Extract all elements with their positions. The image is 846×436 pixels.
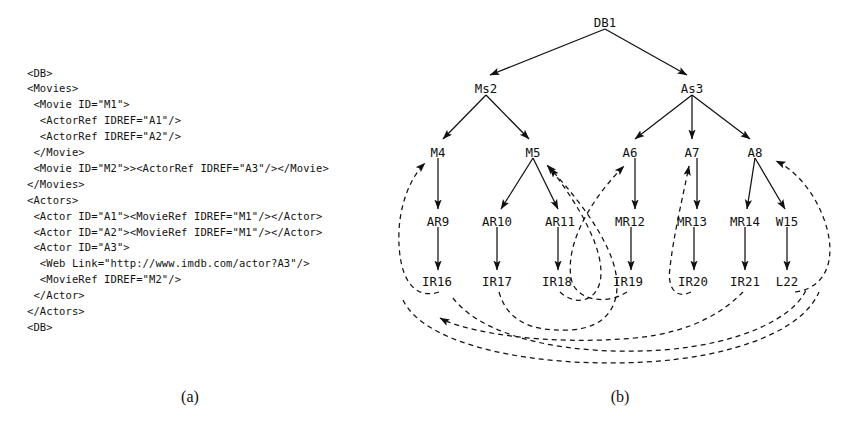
node-m5: M5: [526, 145, 541, 160]
node-a6: A6: [623, 145, 638, 160]
node-m4: M4: [431, 145, 446, 160]
node-ar11: AR11: [545, 214, 575, 229]
node-a8: A8: [748, 145, 763, 160]
node-as3: As3: [681, 81, 703, 96]
edge-db1-as3: [605, 29, 687, 75]
node-mr12: MR12: [615, 214, 645, 229]
node-ir19: IR19: [613, 274, 643, 289]
edge-m5-ar10: [501, 158, 533, 209]
node-mr13: MR13: [677, 214, 707, 229]
ref-edge-ir21-a8: [440, 292, 743, 340]
node-a7: A7: [685, 145, 700, 160]
edge-ms2-m5: [486, 95, 529, 139]
edge-m5-ar11: [533, 158, 558, 209]
node-ar10: AR10: [482, 214, 512, 229]
edge-as3-a8: [692, 95, 750, 139]
node-ir20: IR20: [678, 274, 708, 289]
reference-edge-group: [399, 161, 830, 363]
xml-listing-panel: <DB> <Movies> <Movie ID="M1"> <ActorRef …: [27, 55, 377, 346]
edge-as3-a6: [635, 95, 692, 139]
node-db1: DB1: [594, 15, 616, 30]
edge-ms2-m4: [443, 95, 486, 139]
caption-a: (a): [170, 388, 210, 406]
node-ms2: Ms2: [475, 81, 497, 96]
xml-source-code: <DB> <Movies> <Movie ID="M1"> <ActorRef …: [27, 66, 377, 336]
node-ir16: IR16: [422, 274, 452, 289]
node-ar9: AR9: [427, 214, 449, 229]
xml-graph-diagram: DB1 Ms2 As3 M4 M5 A6 A7 A8 AR9 AR10 AR11…: [395, 0, 846, 380]
figure-root: <DB> <Movies> <Movie ID="M1"> <ActorRef …: [0, 0, 846, 436]
edge-db1-ms2: [490, 29, 605, 75]
edge-a8-w15: [755, 158, 785, 209]
node-ir17: IR17: [482, 274, 512, 289]
node-ir21: IR21: [730, 274, 760, 289]
node-label-group: DB1 Ms2 As3 M4 M5 A6 A7 A8 AR9 AR10 AR11…: [422, 15, 798, 289]
edge-a8-mr14: [747, 158, 755, 209]
tree-edge-group: [438, 29, 787, 270]
node-mr14: MR14: [730, 214, 760, 229]
node-ir18: IR18: [542, 274, 572, 289]
caption-b: (b): [600, 388, 640, 406]
node-w15: W15: [776, 214, 798, 229]
node-l22: L22: [776, 274, 798, 289]
